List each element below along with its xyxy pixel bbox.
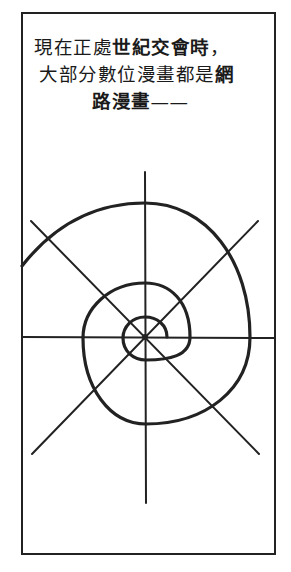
horizontal-axis-line	[22, 337, 275, 338]
center-point	[142, 334, 148, 340]
spiral-curve	[22, 203, 250, 424]
radial-lines	[22, 172, 275, 503]
spiral-diagram	[0, 0, 291, 572]
